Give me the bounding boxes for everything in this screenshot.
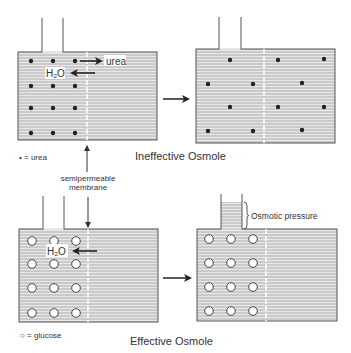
urea-particle — [251, 129, 255, 133]
urea-particle — [206, 82, 210, 86]
glucose-particle — [227, 307, 236, 316]
glucose-particle — [72, 284, 81, 293]
glucose-particle — [227, 283, 236, 292]
water-flux-label: H₂O — [46, 68, 65, 79]
urea-flux-label: urea — [106, 56, 126, 67]
glucose-particle — [50, 309, 59, 318]
urea-particle — [300, 81, 304, 85]
urea-particle — [228, 105, 232, 109]
glucose-particle — [28, 260, 37, 269]
glucose-particle — [227, 259, 236, 268]
effective-after-container: Osmotic pressure — [197, 194, 337, 321]
urea-particle — [322, 57, 326, 61]
glucose-particle — [28, 309, 37, 318]
glucose-particle — [249, 283, 258, 292]
glucose-particle — [28, 237, 37, 246]
urea-particle — [276, 58, 280, 62]
glucose-particle — [205, 283, 214, 292]
urea-particle — [51, 106, 55, 110]
urea-particle — [51, 59, 55, 63]
panel-title-ineffective: Ineffective Osmole — [135, 150, 226, 162]
membrane-label-line2: membrane — [69, 183, 108, 192]
glucose-particle — [205, 235, 214, 244]
glucose-particle — [50, 260, 59, 269]
panel-title-effective: Effective Osmole — [130, 335, 213, 347]
urea-particle — [276, 105, 280, 109]
glucose-particle — [28, 284, 37, 293]
urea-particle — [228, 58, 232, 62]
legend-urea: • = urea — [19, 153, 47, 162]
membrane-label-line1: semipermeable — [61, 174, 116, 183]
urea-particle — [73, 106, 77, 110]
glucose-particle — [205, 259, 214, 268]
glucose-particle — [249, 259, 258, 268]
water-flux-label: H₂O — [47, 246, 66, 257]
urea-particle — [29, 84, 33, 88]
glucose-particle — [205, 307, 214, 316]
glucose-particle — [72, 237, 81, 246]
glucose-particle — [227, 235, 236, 244]
osmotic-pressure-label: Osmotic pressure — [251, 211, 318, 221]
urea-particle — [206, 129, 210, 133]
urea-particle — [322, 105, 326, 109]
urea-particle — [29, 131, 33, 135]
glucose-particle — [249, 307, 258, 316]
urea-particle — [51, 84, 55, 88]
glucose-particle — [249, 235, 258, 244]
urea-particle — [29, 59, 33, 63]
fluid — [196, 49, 335, 143]
osmotic-pressure-brace — [244, 202, 249, 229]
tube-fluid-column — [221, 202, 242, 230]
glucose-particle — [50, 284, 59, 293]
urea-particle — [51, 131, 55, 135]
urea-particle — [29, 106, 33, 110]
urea-particle — [73, 84, 77, 88]
legend-glucose: ○ = glucose — [20, 331, 62, 340]
urea-particle — [73, 131, 77, 135]
urea-particle — [251, 82, 255, 86]
fluid — [197, 229, 337, 321]
urea-particle — [73, 59, 77, 63]
glucose-particle — [72, 309, 81, 318]
osmole-diagram: urea H₂O • = urea Ineffective Osmole sem… — [0, 0, 351, 353]
urea-particle — [300, 128, 304, 132]
ineffective-before-container: urea H₂O — [18, 18, 157, 140]
ineffective-after-container — [196, 17, 335, 143]
glucose-particle — [72, 260, 81, 269]
